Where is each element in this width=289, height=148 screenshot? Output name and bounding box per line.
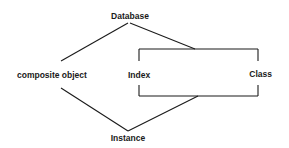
diagram-canvas: Database composite object Index Class In… bbox=[0, 0, 289, 148]
node-index: Index bbox=[128, 70, 150, 80]
node-instance: Instance bbox=[111, 133, 146, 143]
node-composite-object: composite object bbox=[17, 70, 87, 80]
node-database: Database bbox=[111, 11, 149, 21]
edge-group-instance bbox=[128, 96, 198, 131]
edge-database-group bbox=[130, 23, 195, 49]
edge-database-composite-object bbox=[61, 23, 128, 61]
index-class-group-box bbox=[139, 49, 258, 96]
edge-composite-object-instance bbox=[61, 88, 128, 131]
node-class: Class bbox=[249, 69, 272, 79]
